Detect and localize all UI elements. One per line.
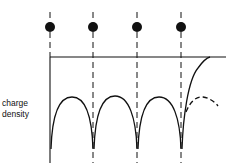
y-axis-label: charge density xyxy=(2,98,44,120)
ion-dot-1 xyxy=(45,22,55,32)
y-axis-label-line-2: density xyxy=(2,109,44,120)
surface-density-dashed-curve xyxy=(186,97,218,112)
density-arc-3 xyxy=(138,97,181,149)
ion-guide-lines xyxy=(50,12,181,163)
density-arc-2 xyxy=(94,96,137,149)
density-arc-1 xyxy=(51,97,93,149)
charge-density-diagram xyxy=(0,0,234,167)
density-arcs xyxy=(51,96,181,149)
y-axis-label-line-1: charge xyxy=(2,98,44,109)
ions xyxy=(45,22,186,32)
ion-dot-2 xyxy=(88,22,98,32)
surface-density-solid-curve xyxy=(182,57,210,149)
ion-dot-3 xyxy=(132,22,142,32)
ion-dot-4 xyxy=(176,22,186,32)
